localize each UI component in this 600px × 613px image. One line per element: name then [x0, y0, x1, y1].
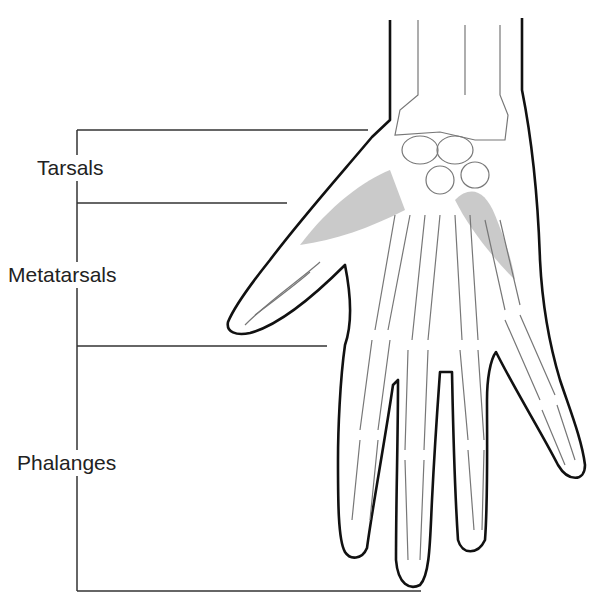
label-phalanges: Phalanges: [15, 450, 118, 476]
label-metatarsals: Metatarsals: [6, 262, 119, 288]
hand-illustration: [0, 0, 600, 613]
label-tarsals: Tarsals: [35, 155, 106, 181]
bones: [245, 20, 575, 560]
